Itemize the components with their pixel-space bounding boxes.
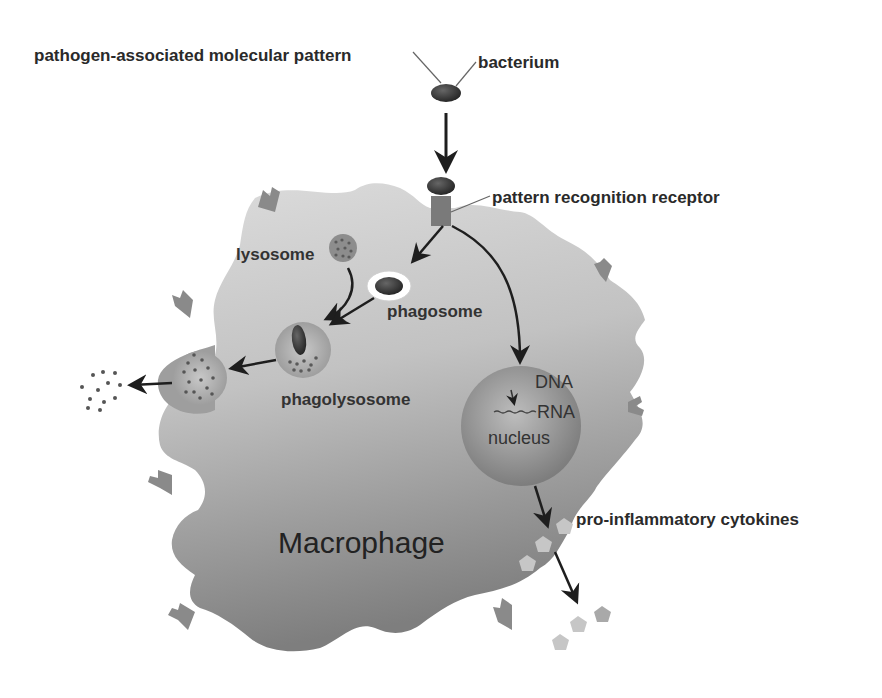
bacterium-leader-line	[456, 62, 476, 86]
bound-bacterium-icon	[427, 177, 455, 195]
label-cytokines: pro-inflammatory cytokines	[576, 510, 799, 529]
lysosome-icon	[329, 234, 357, 262]
label-lysosome: lysosome	[236, 245, 314, 264]
released-debris-icon	[80, 370, 122, 412]
membrane-receptor-icon	[172, 290, 193, 318]
label-bacterium: bacterium	[478, 53, 559, 72]
label-rna: RNA	[537, 402, 575, 422]
label-dna: DNA	[535, 372, 573, 392]
macrophage-diagram: pathogen-associated molecular pattern ba…	[0, 0, 882, 698]
phagolysosome-icon	[275, 322, 331, 378]
membrane-receptor-icon	[168, 603, 195, 630]
label-phagolysosome: phagolysosome	[281, 390, 410, 409]
pamp-leader-line	[413, 52, 441, 83]
arrow-cytokine-secretion	[555, 552, 576, 600]
label-nucleus: nucleus	[488, 428, 550, 448]
pattern-recognition-receptor-icon	[431, 196, 451, 226]
label-macrophage: Macrophage	[278, 526, 445, 559]
phagosome-icon	[367, 271, 411, 301]
label-prr: pattern recognition receptor	[492, 188, 720, 207]
bacterium-icon	[431, 84, 461, 102]
membrane-receptor-icon	[493, 598, 512, 630]
label-pamp: pathogen-associated molecular pattern	[34, 46, 351, 65]
membrane-receptor-icon	[148, 470, 172, 495]
label-phagosome: phagosome	[387, 302, 482, 321]
